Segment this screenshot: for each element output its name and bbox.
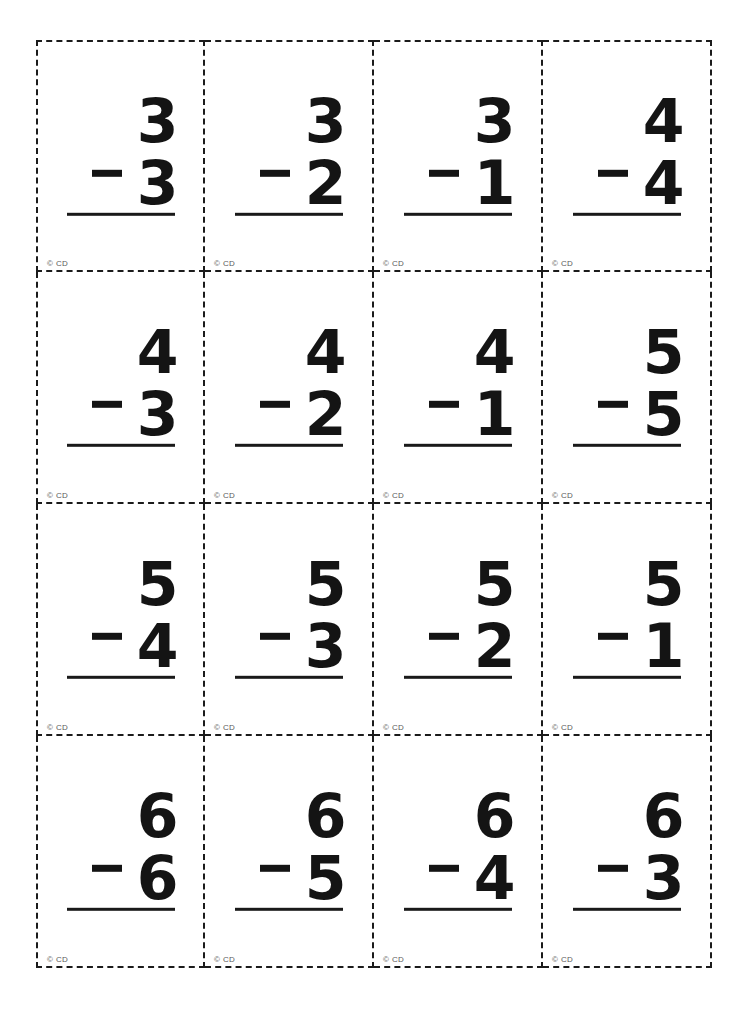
minuend-row: 5 — [568, 549, 686, 609]
subtrahend-row: 5 — [230, 843, 348, 903]
minuend-row: 3 — [399, 86, 517, 146]
minuend-digit: 5 — [473, 560, 517, 609]
operator-spacer — [260, 781, 304, 841]
subtrahend-digit: 3 — [136, 159, 180, 208]
minuend-row: 6 — [568, 781, 686, 841]
minus-sign-icon — [598, 632, 628, 639]
minus-operator — [260, 611, 304, 671]
minuend-digit: 5 — [136, 560, 180, 609]
minuend-row: 4 — [62, 317, 180, 377]
minus-operator — [429, 379, 473, 439]
minuend-digit: 5 — [642, 328, 686, 377]
subtrahend-digit: 5 — [304, 854, 348, 903]
subtrahend-digit: 6 — [136, 854, 180, 903]
subtrahend-row: 3 — [230, 611, 348, 671]
copyright-mark: © CD — [552, 259, 573, 268]
operator-spacer — [92, 86, 136, 146]
minus-sign-icon — [598, 169, 628, 176]
minuend-row: 5 — [62, 549, 180, 609]
minuend-digit: 3 — [304, 97, 348, 146]
minuend-digit: 4 — [473, 328, 517, 377]
operator-spacer — [260, 86, 304, 146]
flash-card: 53© CD — [205, 504, 374, 736]
minuend-digit: 5 — [642, 560, 686, 609]
subtrahend-digit: 1 — [642, 622, 686, 671]
subtrahend-digit: 1 — [473, 390, 517, 439]
subtraction-problem: 54 — [62, 549, 180, 679]
copyright-mark: © CD — [47, 491, 68, 500]
operator-spacer — [598, 549, 642, 609]
minus-operator — [260, 843, 304, 903]
minus-operator — [92, 379, 136, 439]
minus-operator — [260, 148, 304, 208]
minus-sign-icon — [429, 864, 459, 871]
minuend-digit: 4 — [304, 328, 348, 377]
flash-card: 31© CD — [374, 40, 543, 272]
subtrahend-row: 3 — [568, 843, 686, 903]
subtraction-problem: 52 — [399, 549, 517, 679]
minuend-row: 4 — [568, 86, 686, 146]
subtrahend-row: 3 — [62, 148, 180, 208]
subtrahend-row: 4 — [62, 611, 180, 671]
flash-card: 66© CD — [36, 736, 205, 968]
flash-card: 41© CD — [374, 272, 543, 504]
subtrahend-row: 2 — [399, 611, 517, 671]
flash-card: 43© CD — [36, 272, 205, 504]
minuend-row: 5 — [230, 549, 348, 609]
copyright-mark: © CD — [47, 723, 68, 732]
operator-spacer — [598, 317, 642, 377]
subtraction-problem: 51 — [568, 549, 686, 679]
minus-operator — [92, 611, 136, 671]
subtrahend-digit: 2 — [304, 390, 348, 439]
operator-spacer — [429, 317, 473, 377]
subtrahend-row: 6 — [62, 843, 180, 903]
minus-operator — [92, 843, 136, 903]
subtrahend-row: 1 — [399, 148, 517, 208]
flash-card: 63© CD — [543, 736, 712, 968]
subtrahend-digit: 2 — [473, 622, 517, 671]
copyright-mark: © CD — [214, 723, 235, 732]
subtrahend-row: 4 — [399, 843, 517, 903]
minus-sign-icon — [260, 632, 290, 639]
subtraction-problem: 44 — [568, 86, 686, 216]
minus-operator — [598, 148, 642, 208]
subtraction-problem: 63 — [568, 781, 686, 911]
minus-sign-icon — [429, 169, 459, 176]
minus-sign-icon — [429, 632, 459, 639]
flash-card: 44© CD — [543, 40, 712, 272]
subtrahend-digit: 1 — [473, 159, 517, 208]
subtrahend-digit: 2 — [304, 159, 348, 208]
minuend-digit: 4 — [642, 97, 686, 146]
minuend-row: 3 — [230, 86, 348, 146]
subtrahend-row: 2 — [230, 148, 348, 208]
minuend-row: 5 — [568, 317, 686, 377]
copyright-mark: © CD — [552, 955, 573, 964]
minuend-digit: 5 — [304, 560, 348, 609]
subtraction-problem: 55 — [568, 317, 686, 447]
minus-sign-icon — [92, 169, 122, 176]
minus-operator — [429, 611, 473, 671]
operator-spacer — [598, 781, 642, 841]
flash-card: 33© CD — [36, 40, 205, 272]
subtrahend-digit: 5 — [642, 390, 686, 439]
minuend-digit: 3 — [136, 97, 180, 146]
operator-spacer — [92, 549, 136, 609]
minus-sign-icon — [260, 400, 290, 407]
operator-spacer — [429, 781, 473, 841]
copyright-mark: © CD — [383, 723, 404, 732]
subtrahend-row: 2 — [230, 379, 348, 439]
flash-card: 51© CD — [543, 504, 712, 736]
subtrahend-digit: 3 — [136, 390, 180, 439]
subtrahend-row: 4 — [568, 148, 686, 208]
copyright-mark: © CD — [383, 491, 404, 500]
copyright-mark: © CD — [214, 259, 235, 268]
copyright-mark: © CD — [214, 491, 235, 500]
flash-card: 65© CD — [205, 736, 374, 968]
subtraction-problem: 66 — [62, 781, 180, 911]
worksheet-sheet: 33© CD32© CD31© CD44© CD43© CD42© CD41© … — [0, 0, 737, 1031]
minus-sign-icon — [429, 400, 459, 407]
minus-operator — [92, 148, 136, 208]
operator-spacer — [92, 781, 136, 841]
flash-card: 52© CD — [374, 504, 543, 736]
subtraction-problem: 41 — [399, 317, 517, 447]
